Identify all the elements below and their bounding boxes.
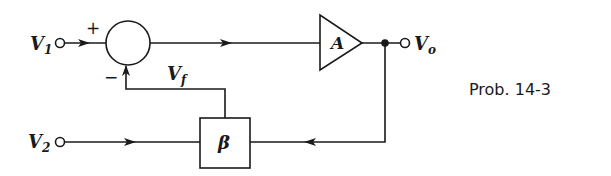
beta-label: β (217, 132, 230, 153)
minus-sign: − (104, 67, 118, 87)
vo-terminal (401, 39, 410, 48)
v2-label: V2 (28, 131, 50, 155)
output-to-beta-wire (250, 43, 385, 142)
v1-label: V1 (30, 33, 52, 57)
plus-sign: + (86, 18, 100, 38)
v1-terminal (56, 39, 65, 48)
problem-caption: Prob. 14-3 (460, 80, 560, 99)
vo-label: Vo (414, 33, 436, 57)
amplifier-label: A (329, 33, 344, 53)
summing-junction (106, 21, 150, 65)
v2-terminal (56, 138, 65, 147)
vf-label: Vf (167, 63, 188, 87)
